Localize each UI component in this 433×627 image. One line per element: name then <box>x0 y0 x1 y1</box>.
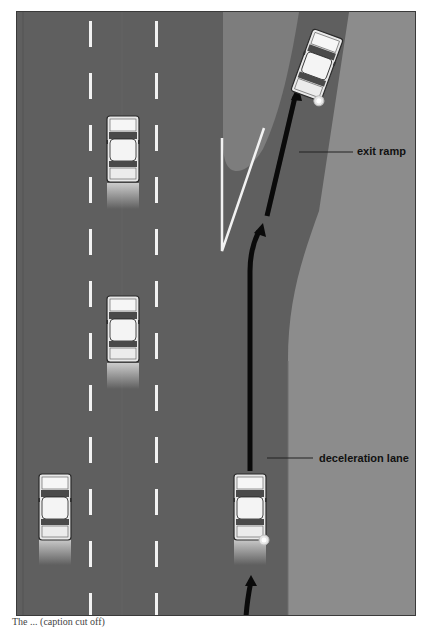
highway-exit-diagram <box>17 12 416 616</box>
figure-caption: The ... (caption cut off) <box>12 617 105 627</box>
car-lane2-top <box>106 116 140 182</box>
car-deceleration-lane <box>233 474 269 545</box>
car-lane1-bottom <box>38 474 72 540</box>
diagram-frame: exit ramp deceleration lane <box>16 11 416 616</box>
exit-ramp-label: exit ramp <box>357 145 406 157</box>
car-lane2-middle <box>106 296 140 362</box>
deceleration-lane-label: deceleration lane <box>319 452 409 464</box>
